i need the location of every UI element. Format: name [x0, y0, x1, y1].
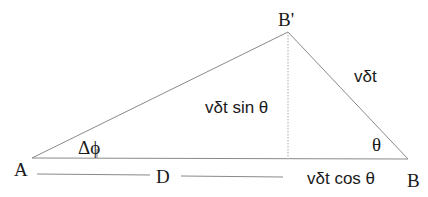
adjacent-label: vδt cos θ: [307, 170, 375, 187]
hypotenuse-label: vδt: [354, 68, 377, 85]
opposite-label: vδt sin θ: [205, 99, 268, 116]
vertex-label-a: A: [14, 160, 28, 179]
distance-label: D: [156, 167, 170, 186]
side-a-bprime: [32, 32, 288, 158]
distance-line-left: [37, 174, 150, 175]
side-a-b: [32, 158, 408, 159]
triangle-diagram: A B' B Δϕ θ vδt vδt sin θ vδt cos θ D: [0, 0, 428, 197]
distance-line-right: [181, 176, 283, 177]
angle-label-theta: θ: [372, 135, 381, 154]
angle-label-phi: Δϕ: [78, 138, 100, 157]
vertex-label-b-prime: B': [278, 10, 294, 29]
side-bprime-b: [288, 32, 408, 159]
vertex-label-b: B: [407, 171, 420, 190]
